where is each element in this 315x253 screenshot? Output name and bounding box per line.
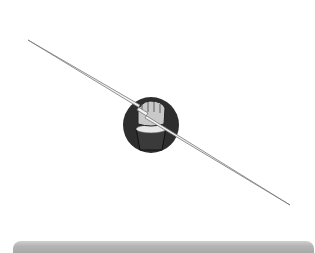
bottom-bar — [13, 241, 314, 253]
fist-lightning-icon — [0, 0, 315, 240]
fist-lightning-illustration — [0, 0, 315, 240]
